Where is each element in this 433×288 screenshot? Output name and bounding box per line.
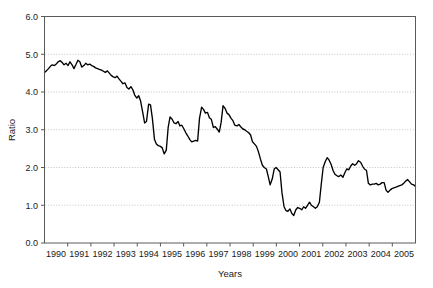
x-tick-label: 1990	[46, 249, 66, 259]
x-tick-label: 2005	[394, 249, 414, 259]
x-tick-label: 1998	[232, 249, 252, 259]
chart-background	[0, 0, 433, 288]
chart-figure: 0.01.02.03.04.05.06.0 199019911992199319…	[0, 0, 433, 288]
y-tick-label: 5.0	[25, 50, 38, 60]
x-tick-label: 1992	[92, 249, 112, 259]
x-tick-label: 2001	[301, 249, 321, 259]
y-tick-label: 6.0	[25, 12, 38, 22]
y-tick-label: 1.0	[25, 201, 38, 211]
x-tick-label: 2000	[278, 249, 298, 259]
x-tick-label: 1999	[255, 249, 275, 259]
x-tick-label: 1996	[185, 249, 205, 259]
x-axis-title: Years	[218, 268, 242, 279]
x-tick-label: 2002	[324, 249, 344, 259]
x-tick-label: 2004	[371, 249, 391, 259]
y-tick-label: 3.0	[25, 125, 38, 135]
x-tick-label: 1997	[208, 249, 228, 259]
x-tick-label: 1991	[69, 249, 89, 259]
y-axis-title: Ratio	[6, 119, 17, 141]
x-tick-label: 1993	[116, 249, 136, 259]
ratio-line-chart: 0.01.02.03.04.05.06.0 199019911992199319…	[0, 0, 433, 288]
x-tick-label: 1995	[162, 249, 182, 259]
x-tick-label: 2003	[348, 249, 368, 259]
y-tick-label: 2.0	[25, 163, 38, 173]
x-tick-label: 1994	[139, 249, 159, 259]
y-tick-label: 4.0	[25, 87, 38, 97]
y-tick-label: 0.0	[25, 238, 38, 248]
